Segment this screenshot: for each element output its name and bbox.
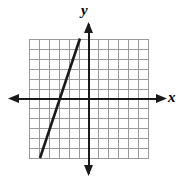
y-axis-label: y — [81, 3, 88, 18]
graph-canvas — [0, 0, 185, 183]
coordinate-plane-figure: y x — [0, 0, 185, 183]
x-axis-label: x — [168, 90, 176, 105]
x-axis-left-arrowhead — [8, 94, 19, 103]
y-axis-bottom-arrowhead — [84, 165, 93, 176]
x-axis-right-arrowhead — [156, 94, 167, 103]
y-axis-top-arrowhead — [84, 22, 93, 33]
